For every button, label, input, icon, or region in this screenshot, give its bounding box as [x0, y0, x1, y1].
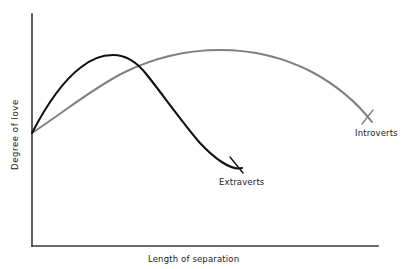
chart-plot-area: [0, 0, 409, 269]
series-label-introverts: Introverts: [355, 128, 398, 138]
series-label-extraverts: Extraverts: [219, 177, 264, 187]
y-axis-title: Degree of love: [10, 106, 20, 170]
extraverts-leader-line: [230, 157, 243, 173]
x-axis-title: Length of separation: [148, 254, 239, 264]
curve-introverts: [32, 50, 372, 133]
chart-figure: Length of separation Degree of love Extr…: [0, 0, 409, 269]
